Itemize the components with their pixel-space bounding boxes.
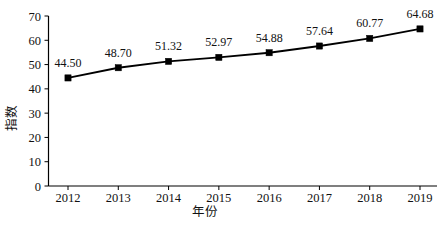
y-tick-label: 10 xyxy=(29,155,42,169)
data-point-marker xyxy=(266,50,272,56)
y-tick-label: 60 xyxy=(29,34,42,48)
data-point-label: 52.97 xyxy=(205,35,232,49)
x-tick-label: 2016 xyxy=(257,191,282,205)
data-point-marker xyxy=(216,54,222,60)
y-tick-label: 20 xyxy=(29,131,42,145)
y-tick-label: 30 xyxy=(29,107,42,121)
y-tick-label: 40 xyxy=(29,82,42,96)
data-point-label: 51.32 xyxy=(155,39,182,53)
data-point-marker xyxy=(165,58,171,64)
data-point-label: 48.70 xyxy=(105,46,132,60)
x-tick-label: 2012 xyxy=(56,191,81,205)
chart-canvas: 010203040506070 指数 201220132014201520162… xyxy=(0,0,440,233)
x-tick-label: 2015 xyxy=(206,191,231,205)
data-point-label: 60.77 xyxy=(356,16,383,30)
line-chart: 010203040506070 指数 201220132014201520162… xyxy=(0,0,440,233)
data-point-marker xyxy=(316,43,322,49)
y-tick-label: 0 xyxy=(35,180,41,194)
data-point-marker xyxy=(417,26,423,32)
x-tick-label: 2014 xyxy=(156,191,182,205)
x-tick-label: 2013 xyxy=(106,191,131,205)
x-axis-title: 年份 xyxy=(192,205,218,219)
data-point-label: 57.64 xyxy=(306,24,333,38)
data-point-marker xyxy=(115,65,121,71)
y-axis-title: 指数 xyxy=(4,105,19,131)
x-tick-label: 2017 xyxy=(307,191,332,205)
x-tick-label: 2019 xyxy=(408,191,433,205)
x-tick-label: 2018 xyxy=(357,191,382,205)
data-point-marker xyxy=(367,35,373,41)
data-point-label: 44.50 xyxy=(55,56,82,70)
data-point-marker xyxy=(65,75,71,81)
y-tick-label: 70 xyxy=(29,10,42,24)
y-tick-label: 50 xyxy=(29,58,42,72)
data-point-label: 54.88 xyxy=(256,31,283,45)
data-point-label: 64.68 xyxy=(407,7,434,21)
